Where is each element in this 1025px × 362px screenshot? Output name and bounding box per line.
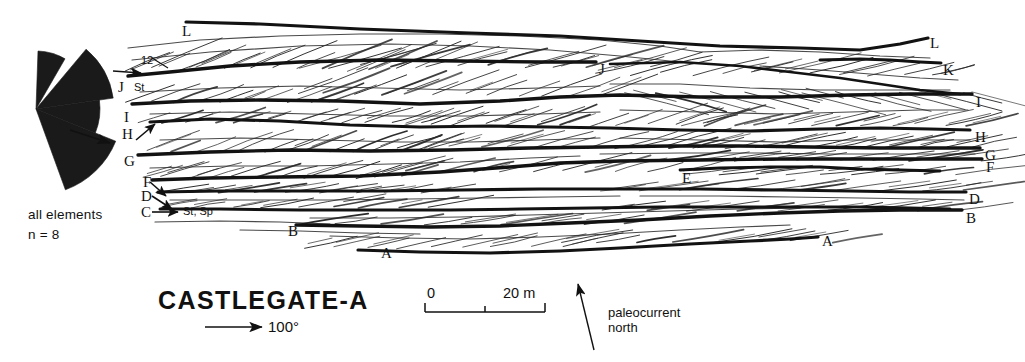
leader-j-arrow: [113, 71, 141, 73]
leader-12: [152, 58, 168, 68]
unit-label-left-D: D: [141, 189, 152, 204]
leader-d-arrow: [152, 196, 172, 209]
unit-label-left-B: B: [288, 224, 298, 239]
set-count-12: 12: [141, 55, 153, 66]
rose-mean-direction-arrow: [70, 130, 110, 143]
leader-f-arrow: [150, 182, 166, 196]
page-title: CASTLEGATE-A: [158, 288, 369, 313]
unit-label-right-H: H: [975, 130, 986, 145]
scale-bar-max-label: 20 m: [503, 286, 535, 301]
lithofacies-st-sp: St, Sp: [183, 206, 213, 217]
unit-label-right-B: B: [966, 211, 976, 226]
unit-label-interior-J: J: [599, 62, 605, 77]
unit-label-left-G: G: [124, 154, 135, 169]
unit-label-interior-E: E: [682, 171, 691, 186]
annotation-linework: [0, 0, 1025, 362]
unit-label-left-J: J: [118, 80, 124, 95]
leader-h-arrow: [136, 124, 155, 140]
unit-label-right-F: F: [986, 160, 994, 175]
unit-label-left-A: A: [381, 246, 392, 261]
figure-root: all elements n = 8 CASTLEGATE-A 0 20 m 1…: [0, 0, 1025, 362]
scale-bar: [425, 303, 545, 312]
unit-label-right-I: I: [976, 95, 981, 110]
paleocurrent-north-arrow: [578, 284, 594, 350]
unit-label-right-L: L: [930, 36, 939, 51]
rose-caption-elements: all elements: [28, 208, 102, 222]
unit-label-left-I: I: [124, 110, 129, 125]
lithofacies-st: St: [134, 82, 144, 93]
north-caption-line1: paleocurrent: [608, 306, 680, 321]
unit-label-left-L: L: [182, 24, 191, 39]
unit-label-left-C: C: [141, 205, 151, 220]
scale-bar-zero-label: 0: [427, 286, 435, 301]
unit-label-right-D: D: [969, 192, 980, 207]
unit-label-right-K: K: [943, 63, 954, 78]
rose-caption-count: n = 8: [28, 228, 59, 242]
azimuth-label: 100°: [268, 319, 299, 334]
unit-label-right-A: A: [822, 234, 833, 249]
unit-label-left-H: H: [122, 127, 133, 142]
north-caption-line2: north: [608, 321, 638, 336]
